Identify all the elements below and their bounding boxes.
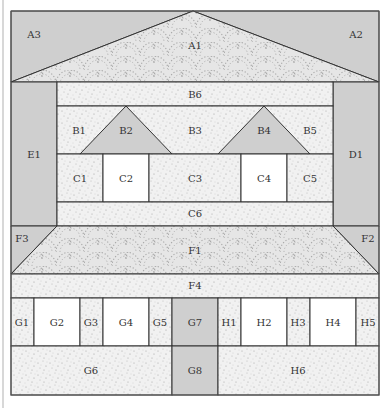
label-G7: G7 xyxy=(188,317,202,328)
label-B1: B1 xyxy=(72,125,86,136)
label-H1: H1 xyxy=(221,317,236,328)
label-A3: A3 xyxy=(26,29,41,40)
label-H4: H4 xyxy=(325,317,340,328)
label-B2: B2 xyxy=(119,125,133,136)
label-C4: C4 xyxy=(257,173,271,184)
label-B5: B5 xyxy=(303,125,317,136)
label-B4: B4 xyxy=(257,125,271,136)
label-H6: H6 xyxy=(290,365,305,376)
label-C1: C1 xyxy=(73,173,87,184)
label-A1: A1 xyxy=(187,40,202,51)
label-H5: H5 xyxy=(360,317,375,328)
label-B6: B6 xyxy=(188,89,202,100)
label-E1: E1 xyxy=(27,149,41,160)
label-H3: H3 xyxy=(290,317,305,328)
label-D1: D1 xyxy=(349,149,363,160)
label-C3: C3 xyxy=(188,173,202,184)
label-G1: G1 xyxy=(15,317,29,328)
label-G4: G4 xyxy=(119,317,133,328)
label-G6: G6 xyxy=(84,365,98,376)
label-C2: C2 xyxy=(119,173,133,184)
label-F4: F4 xyxy=(188,280,201,291)
label-A2: A2 xyxy=(348,29,363,40)
label-H2: H2 xyxy=(256,317,271,328)
label-F3: F3 xyxy=(15,233,28,244)
quilt-diagram: A3 A1 A2 B6 B1 B2 B3 B4 B5 E1 D1 C1 C2 C… xyxy=(0,0,386,408)
label-F2: F2 xyxy=(361,233,374,244)
label-G8: G8 xyxy=(188,365,202,376)
label-G2: G2 xyxy=(50,317,64,328)
label-G5: G5 xyxy=(153,317,167,328)
label-B3: B3 xyxy=(188,125,202,136)
label-F1: F1 xyxy=(188,245,201,256)
label-G3: G3 xyxy=(84,317,98,328)
label-C6: C6 xyxy=(188,208,202,219)
label-C5: C5 xyxy=(303,173,317,184)
